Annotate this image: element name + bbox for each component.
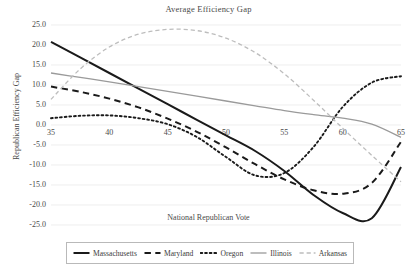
legend-swatch-icon: [299, 249, 316, 257]
legend-item-illinois[interactable]: Illinois: [250, 249, 292, 258]
legend-label: Arkansas: [319, 249, 347, 258]
legend-swatch-icon: [144, 249, 161, 257]
y-tick-label: -5.0: [12, 140, 46, 149]
series-line-oregon: [51, 76, 401, 177]
y-tick-label: 5.0: [12, 100, 46, 109]
chart-container: Average Efficiency Gap Republican Effici…: [0, 0, 417, 271]
legend-swatch-icon: [73, 249, 90, 257]
legend-label: Oregon: [220, 249, 243, 258]
legend-swatch-icon: [250, 249, 267, 257]
plot-area: [51, 25, 401, 225]
legend-item-massachusetts[interactable]: Massachusetts: [73, 249, 137, 258]
chart-legend: MassachusettsMarylandOregonIllinoisArkan…: [66, 242, 354, 264]
y-tick-label: -10.0: [12, 160, 46, 169]
legend-item-maryland[interactable]: Maryland: [144, 249, 194, 258]
x-axis-label: National Republican Vote: [0, 213, 417, 222]
series-canvas: [51, 25, 401, 225]
series-line-maryland: [51, 87, 401, 195]
y-tick-label: -20.0: [12, 200, 46, 209]
y-tick-label: 15.0: [12, 60, 46, 69]
series-line-arkansas: [51, 29, 401, 182]
legend-item-oregon[interactable]: Oregon: [200, 249, 243, 258]
legend-item-arkansas[interactable]: Arkansas: [299, 249, 347, 258]
y-tick-label: 20.0: [12, 40, 46, 49]
legend-label: Maryland: [164, 249, 194, 258]
legend-swatch-icon: [200, 249, 217, 257]
series-line-massachusetts: [51, 42, 401, 221]
chart-title: Average Efficiency Gap: [0, 4, 417, 14]
legend-label: Massachusetts: [93, 249, 137, 258]
y-tick-label: 10.0: [12, 80, 46, 89]
y-axis-label: Republican Efficiency Gap: [12, 62, 21, 172]
y-tick-label: -15.0: [12, 180, 46, 189]
y-tick-label: 25.0: [12, 20, 46, 29]
legend-label: Illinois: [270, 249, 292, 258]
